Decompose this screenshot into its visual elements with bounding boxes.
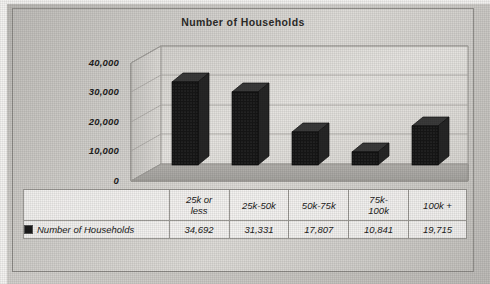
y-tick-30000: 30,000	[49, 86, 119, 97]
category-25k-50k: 25k-50k	[229, 190, 289, 221]
value-25k-or-less: 34,692	[169, 221, 229, 239]
value-50k-75k: 17,807	[289, 221, 349, 239]
legend-label: Number of Households	[37, 224, 134, 235]
category-75k-100k: 75k- 100k	[349, 190, 409, 221]
category-row-spacer	[24, 190, 170, 221]
data-table: 25k or less 25k-50k 50k-75k 75k- 100k 10…	[23, 189, 467, 239]
category-25k-or-less: 25k or less	[169, 190, 229, 221]
category-75k-100k-line2: 100k	[349, 205, 408, 216]
category-75k-100k-line1: 75k-	[349, 194, 408, 205]
legend-swatch-icon	[24, 225, 33, 234]
scanned-page: Number of Households	[0, 0, 490, 284]
category-100k-plus: 100k +	[409, 190, 467, 221]
chart-object: Number of Households	[12, 8, 474, 272]
bar-50k-75k	[292, 123, 329, 165]
table-row-categories: 25k or less 25k-50k 50k-75k 75k- 100k 10…	[24, 190, 467, 221]
table-row-values: Number of Households 34,692 31,331 17,80…	[24, 221, 467, 239]
bar-25k-50k	[232, 83, 269, 165]
bar-100k-plus	[412, 117, 449, 165]
y-tick-20000: 20,000	[49, 116, 119, 127]
category-50k-75k: 50k-75k	[289, 190, 349, 221]
y-tick-0: 0	[49, 175, 119, 186]
y-tick-10000: 10,000	[49, 145, 119, 156]
bar-25k-or-less	[172, 73, 209, 165]
value-75k-100k: 10,841	[349, 221, 409, 239]
category-25k-or-less-line1: 25k or	[170, 194, 229, 205]
category-25k-or-less-line2: less	[170, 205, 229, 216]
plot-floor	[131, 164, 468, 181]
value-25k-50k: 31,331	[229, 221, 289, 239]
legend-entry: Number of Households	[24, 221, 170, 239]
y-tick-40000: 40,000	[49, 57, 119, 68]
value-100k-plus: 19,715	[409, 221, 467, 239]
